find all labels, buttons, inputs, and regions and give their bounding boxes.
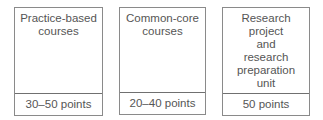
box-title: Research project and research preparatio… [223, 8, 309, 95]
box-points: 30–50 points [15, 93, 102, 115]
title-line: research [223, 51, 309, 64]
title-line: and [223, 38, 309, 51]
title-line: unit [223, 77, 309, 90]
box-points: 20–40 points [120, 92, 205, 114]
box-title: Common-core courses [120, 8, 205, 94]
title-line: courses [15, 25, 102, 38]
title-line: preparation [223, 64, 309, 77]
title-line: Practice-based [15, 12, 102, 25]
box-title: Practice-based courses [15, 8, 102, 95]
box-common-core: Common-core courses 20–40 points [119, 7, 206, 115]
title-line: courses [120, 25, 205, 38]
box-points: 50 points [223, 93, 309, 115]
box-practice-based: Practice-based courses 30–50 points [14, 7, 103, 116]
title-line: Research [223, 12, 309, 25]
box-research-project: Research project and research preparatio… [222, 7, 310, 116]
title-line: Common-core [120, 12, 205, 25]
title-line: project [223, 25, 309, 38]
